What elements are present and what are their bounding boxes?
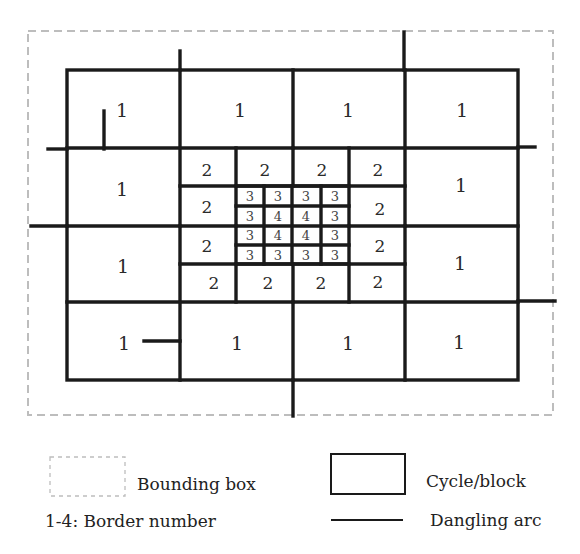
border-number-cell: 3: [246, 248, 254, 263]
border-number-2: 2: [375, 199, 386, 219]
border-number-1: 1: [456, 99, 468, 121]
border-number-cell: 3: [331, 209, 339, 224]
border-number-cell: 4: [302, 228, 310, 243]
border-number-1: 1: [116, 178, 128, 200]
border-number-1: 1: [117, 255, 129, 277]
border-number-2: 2: [317, 160, 328, 180]
legend-cycle-block-label: Cycle/block: [426, 471, 526, 491]
border-number-2: 2: [202, 236, 213, 256]
border-number-diagram: 1 1 1 1 1 1 1 1 1 1 1 1 2 2 2 2 2 2 2 2 …: [0, 0, 580, 554]
border-number-1: 1: [455, 174, 467, 196]
legend-cycle-block-symbol: [331, 454, 405, 494]
legend: Bounding box Cycle/block 1-4: Border num…: [45, 454, 542, 531]
border-number-1: 1: [234, 99, 246, 121]
border-number-1: 1: [231, 332, 243, 354]
border-number-2: 2: [316, 273, 327, 293]
border-number-2: 2: [263, 273, 274, 293]
border-number-1: 1: [454, 252, 466, 274]
border-number-cell: 3: [302, 189, 310, 204]
border-number-cell: 3: [331, 228, 339, 243]
border-number-cell: 4: [274, 209, 282, 224]
border-number-1: 1: [118, 332, 130, 354]
border-number-cell: 3: [274, 248, 282, 263]
border-number-2: 2: [375, 236, 386, 256]
border-number-cell: 3: [302, 248, 310, 263]
border-number-2: 2: [209, 273, 220, 293]
legend-border-number-label: 1-4: Border number: [45, 511, 217, 531]
border-number-cell: 4: [302, 209, 310, 224]
border-number-cell: 3: [274, 189, 282, 204]
border-number-cell: 3: [331, 248, 339, 263]
border-number-2: 2: [202, 160, 213, 180]
border-number-cell: 3: [246, 189, 254, 204]
border-number-cell: 3: [246, 228, 254, 243]
border-number-2: 2: [373, 272, 384, 292]
border-number-2: 2: [202, 197, 213, 217]
border-number-1: 1: [342, 99, 354, 121]
legend-bounding-box-symbol: [50, 457, 125, 496]
border-number-cell: 4: [274, 228, 282, 243]
legend-dangling-arc-label: Dangling arc: [430, 510, 542, 530]
legend-bounding-box-label: Bounding box: [137, 474, 256, 494]
border-number-1: 1: [453, 331, 465, 353]
border-number-2: 2: [260, 160, 271, 180]
border-number-1: 1: [342, 332, 354, 354]
border-number-cell: 3: [246, 209, 254, 224]
border-number-cell: 3: [331, 189, 339, 204]
border-number-1: 1: [116, 99, 128, 121]
border-number-2: 2: [373, 160, 384, 180]
